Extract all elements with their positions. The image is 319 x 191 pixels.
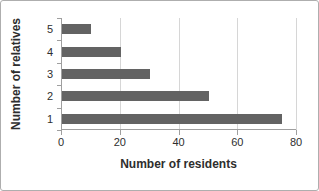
bar	[62, 91, 209, 101]
y-tick-mark	[57, 40, 61, 41]
y-category-label: 4	[35, 45, 53, 59]
gridline	[296, 18, 297, 130]
y-category-label: 3	[35, 67, 53, 81]
plot-area	[61, 18, 296, 130]
x-tick-label: 80	[281, 135, 311, 149]
bar	[62, 24, 91, 34]
bar	[62, 114, 282, 124]
x-tick-label: 60	[222, 135, 252, 149]
x-tick-label: 0	[46, 135, 76, 149]
y-axis-title: Number of relatives	[8, 18, 24, 130]
bar	[62, 47, 121, 57]
y-tick-mark	[57, 108, 61, 109]
x-tick-label: 40	[164, 135, 194, 149]
y-tick-mark	[57, 63, 61, 64]
y-category-label: 5	[35, 22, 53, 36]
y-axis-line	[61, 18, 62, 130]
y-axis-title-text: Number of relatives	[9, 18, 23, 130]
x-tick-label: 20	[105, 135, 135, 149]
x-axis-title: Number of residents	[61, 157, 296, 171]
y-category-label: 1	[35, 112, 53, 126]
y-category-label: 2	[35, 89, 53, 103]
bar-chart: Number of relatives 54321 020406080 Numb…	[0, 0, 319, 191]
bar	[62, 69, 150, 79]
y-tick-mark	[57, 85, 61, 86]
y-tick-mark	[57, 18, 61, 19]
